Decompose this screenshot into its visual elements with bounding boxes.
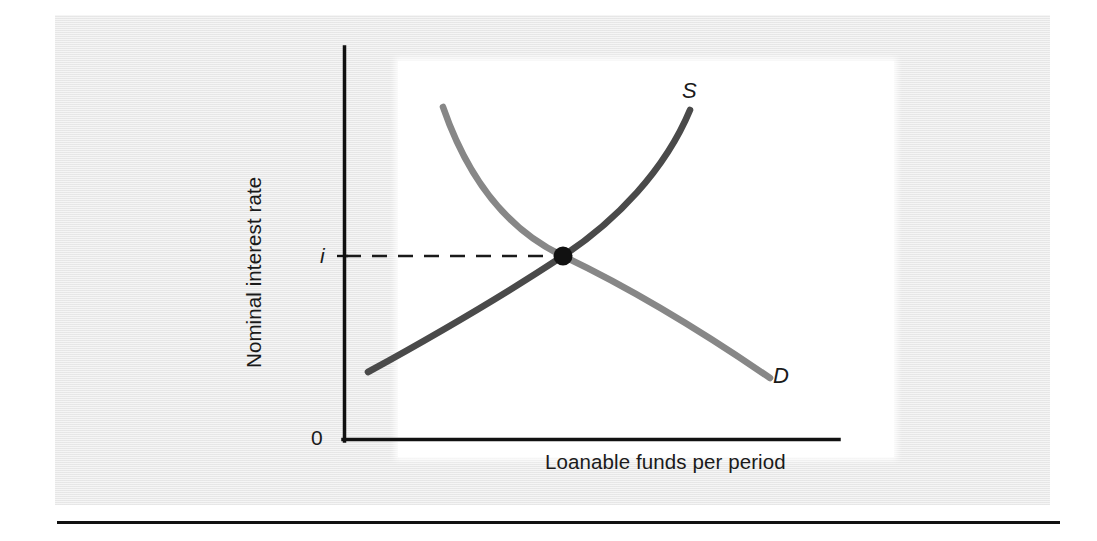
supply-curve: [368, 110, 690, 372]
y-axis-title: Nominal interest rate: [244, 177, 265, 368]
x-axis-title: Loanable funds per period: [545, 452, 786, 473]
supply-curve-label: S: [682, 80, 697, 102]
y-axis-tick-label-i: i: [320, 245, 325, 266]
demand-curve-label: D: [773, 365, 789, 387]
demand-curve: [443, 107, 770, 378]
origin-label-zero: 0: [311, 427, 323, 448]
equilibrium-point-marker: [554, 247, 573, 266]
bottom-horizontal-rule: [57, 521, 1060, 524]
